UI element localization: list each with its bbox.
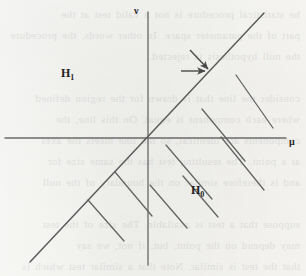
- x-axis-label-mu: μ: [289, 136, 295, 147]
- hatch-line: [166, 145, 212, 199]
- figure-canvas: he statistical procedure is not a valid …: [0, 0, 306, 276]
- hatching-group: [88, 75, 273, 241]
- region-label-h0: H0: [191, 183, 204, 199]
- region-label-h1-base: H: [61, 66, 70, 80]
- hatch-line: [88, 200, 124, 241]
- hatch-line: [221, 137, 264, 190]
- diagram-vector-layer: [0, 0, 306, 276]
- hatch-line: [202, 109, 245, 161]
- hatch-line: [150, 185, 187, 228]
- y-axis-label-nu: ν: [134, 5, 138, 16]
- hatch-line: [115, 172, 152, 216]
- hatch-line: [236, 75, 273, 128]
- region-label-h1-subscript: 1: [70, 73, 74, 82]
- region-label-h0-subscript: 0: [200, 190, 204, 199]
- arrow-diagonal-pointer: [190, 50, 208, 69]
- region-label-h0-base: H: [191, 183, 200, 197]
- region-label-h1: H1: [61, 66, 74, 82]
